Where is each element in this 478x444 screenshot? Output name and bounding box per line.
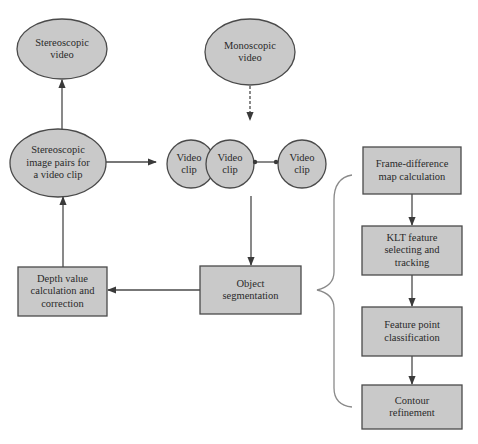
node-video-clip-2 bbox=[206, 140, 254, 188]
link-dot-left bbox=[253, 160, 257, 164]
node-monoscopic-video bbox=[205, 19, 295, 85]
node-klt-feature bbox=[362, 226, 462, 275]
node-feature-point bbox=[362, 307, 462, 356]
node-contour-refinement bbox=[362, 385, 462, 429]
node-frame-difference bbox=[363, 147, 461, 194]
group-brace bbox=[317, 175, 352, 407]
link-dot-right bbox=[274, 160, 278, 164]
node-stereo-image-pairs bbox=[10, 129, 106, 197]
node-depth-value bbox=[18, 267, 107, 316]
node-object-segmentation bbox=[200, 266, 301, 314]
node-stereoscopic-video bbox=[17, 19, 107, 79]
flow-diagram bbox=[0, 0, 478, 444]
node-video-clip-3 bbox=[278, 140, 326, 188]
